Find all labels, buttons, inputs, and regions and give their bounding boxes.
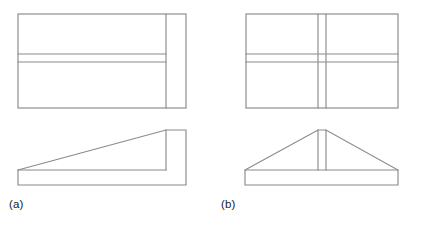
part-a-group — [18, 14, 186, 185]
figure-container: (a) (b) — [0, 0, 421, 225]
part-a-caption: (a) — [9, 199, 23, 211]
part-b-group — [245, 14, 398, 185]
part-b-top-view-outline — [246, 14, 398, 108]
orthographic-views-drawing — [0, 0, 421, 225]
part-a-front-view-outline — [18, 130, 186, 185]
part-a-top-view — [18, 14, 186, 108]
part-b-front-view — [245, 130, 398, 185]
part-b-caption: (b) — [221, 199, 235, 211]
part-a-front-view — [18, 130, 186, 185]
part-b-top-view — [246, 14, 398, 108]
part-b-front-view-outline — [245, 130, 398, 185]
part-a-top-view-outline — [18, 14, 186, 108]
